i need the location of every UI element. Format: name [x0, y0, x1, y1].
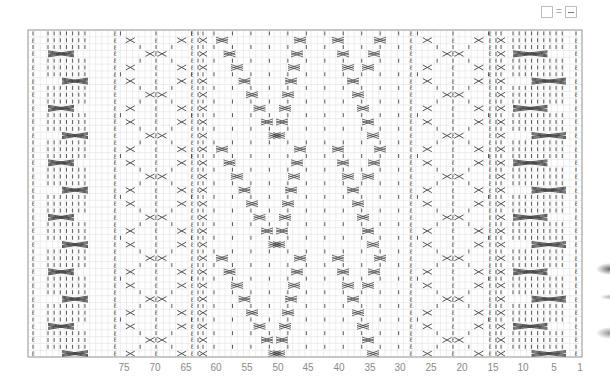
svg-text:ℓ: ℓ: [451, 78, 454, 86]
svg-text:ℓ: ℓ: [451, 309, 454, 317]
svg-text:ℓ: ℓ: [154, 323, 157, 331]
knitting-chart: ℓℓℓℓℓℓℓℓℓℓℓℓℓℓℓℓℓℓℓℓℓℓℓℓℓℓℓℓℓℓℓℓℓℓℓℓℓℓℓℓ…: [0, 0, 610, 390]
svg-text:ℓ: ℓ: [31, 187, 34, 195]
svg-text:ℓ: ℓ: [31, 227, 34, 235]
column-label: 10: [517, 362, 529, 373]
svg-text:ℓ: ℓ: [451, 214, 454, 222]
column-label: 60: [210, 362, 222, 373]
svg-text:ℓ: ℓ: [574, 282, 577, 290]
svg-text:ℓ: ℓ: [451, 64, 454, 72]
svg-text:ℓ: ℓ: [451, 118, 454, 126]
svg-text:ℓ: ℓ: [451, 336, 454, 344]
svg-text:ℓ: ℓ: [154, 282, 157, 290]
svg-text:ℓ: ℓ: [451, 159, 454, 167]
page-edge-shadow: [590, 255, 610, 345]
svg-text:ℓ: ℓ: [574, 255, 577, 263]
svg-text:ℓ: ℓ: [154, 132, 157, 140]
column-label: 45: [302, 362, 314, 373]
column-label: 20: [456, 362, 468, 373]
svg-text:ℓ: ℓ: [154, 146, 157, 154]
svg-text:ℓ: ℓ: [574, 296, 577, 304]
svg-text:ℓ: ℓ: [574, 227, 577, 235]
svg-text:ℓ: ℓ: [451, 50, 454, 58]
svg-text:ℓ: ℓ: [451, 296, 454, 304]
svg-text:ℓ: ℓ: [31, 132, 34, 140]
svg-text:ℓ: ℓ: [451, 132, 454, 140]
svg-text:ℓ: ℓ: [574, 37, 577, 45]
svg-text:ℓ: ℓ: [31, 268, 34, 276]
svg-text:ℓ: ℓ: [574, 309, 577, 317]
svg-text:ℓ: ℓ: [31, 118, 34, 126]
svg-text:ℓ: ℓ: [154, 214, 157, 222]
column-label: 40: [333, 362, 345, 373]
svg-text:ℓ: ℓ: [31, 146, 34, 154]
svg-text:ℓ: ℓ: [451, 255, 454, 263]
svg-text:ℓ: ℓ: [31, 105, 34, 113]
svg-text:ℓ: ℓ: [154, 118, 157, 126]
svg-text:ℓ: ℓ: [574, 118, 577, 126]
svg-text:ℓ: ℓ: [31, 50, 34, 58]
svg-text:ℓ: ℓ: [31, 255, 34, 263]
svg-text:ℓ: ℓ: [31, 91, 34, 99]
svg-text:ℓ: ℓ: [574, 91, 577, 99]
svg-text:ℓ: ℓ: [154, 173, 157, 181]
svg-text:ℓ: ℓ: [451, 200, 454, 208]
svg-text:ℓ: ℓ: [451, 173, 454, 181]
svg-text:ℓ: ℓ: [31, 296, 34, 304]
svg-text:ℓ: ℓ: [574, 64, 577, 72]
svg-text:ℓ: ℓ: [574, 50, 577, 58]
svg-text:ℓ: ℓ: [154, 336, 157, 344]
svg-text:ℓ: ℓ: [154, 64, 157, 72]
svg-text:ℓ: ℓ: [574, 241, 577, 249]
svg-text:ℓ: ℓ: [154, 78, 157, 86]
svg-text:ℓ: ℓ: [31, 323, 34, 331]
chart-grid: [28, 30, 582, 357]
column-label: 30: [394, 362, 406, 373]
svg-text:ℓ: ℓ: [574, 336, 577, 344]
svg-text:ℓ: ℓ: [451, 91, 454, 99]
svg-text:ℓ: ℓ: [31, 159, 34, 167]
svg-text:ℓ: ℓ: [574, 268, 577, 276]
svg-text:ℓ: ℓ: [31, 37, 34, 45]
svg-text:ℓ: ℓ: [574, 173, 577, 181]
column-label: 70: [149, 362, 161, 373]
column-label: 50: [272, 362, 284, 373]
svg-text:ℓ: ℓ: [451, 282, 454, 290]
svg-text:ℓ: ℓ: [31, 173, 34, 181]
column-label: 75: [118, 362, 130, 373]
svg-text:ℓ: ℓ: [31, 282, 34, 290]
svg-text:ℓ: ℓ: [154, 227, 157, 235]
svg-text:ℓ: ℓ: [154, 296, 157, 304]
svg-text:ℓ: ℓ: [574, 159, 577, 167]
column-label: 25: [425, 362, 437, 373]
svg-text:ℓ: ℓ: [31, 214, 34, 222]
svg-text:ℓ: ℓ: [154, 309, 157, 317]
svg-text:ℓ: ℓ: [451, 227, 454, 235]
svg-text:ℓ: ℓ: [451, 187, 454, 195]
svg-text:ℓ: ℓ: [154, 268, 157, 276]
svg-text:ℓ: ℓ: [574, 200, 577, 208]
svg-text:ℓ: ℓ: [31, 78, 34, 86]
svg-text:ℓ: ℓ: [31, 309, 34, 317]
svg-text:ℓ: ℓ: [451, 105, 454, 113]
svg-text:ℓ: ℓ: [154, 159, 157, 167]
svg-text:ℓ: ℓ: [154, 255, 157, 263]
svg-text:ℓ: ℓ: [154, 50, 157, 58]
svg-text:ℓ: ℓ: [451, 241, 454, 249]
svg-text:ℓ: ℓ: [451, 37, 454, 45]
svg-text:ℓ: ℓ: [154, 105, 157, 113]
svg-text:ℓ: ℓ: [31, 64, 34, 72]
svg-text:ℓ: ℓ: [31, 241, 34, 249]
column-number-axis: 757065605550454035302520151051: [118, 362, 583, 373]
column-label: 55: [241, 362, 253, 373]
svg-text:ℓ: ℓ: [154, 241, 157, 249]
column-label: 5: [551, 362, 557, 373]
svg-text:ℓ: ℓ: [574, 187, 577, 195]
svg-text:ℓ: ℓ: [574, 105, 577, 113]
svg-text:ℓ: ℓ: [451, 268, 454, 276]
svg-text:ℓ: ℓ: [451, 146, 454, 154]
svg-text:ℓ: ℓ: [574, 323, 577, 331]
svg-text:ℓ: ℓ: [154, 187, 157, 195]
svg-text:ℓ: ℓ: [31, 200, 34, 208]
svg-text:ℓ: ℓ: [574, 214, 577, 222]
